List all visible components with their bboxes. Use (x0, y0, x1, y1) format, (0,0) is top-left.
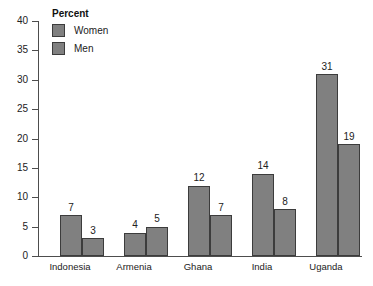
category-label-indonesia: Indonesia (34, 262, 106, 272)
bar-ghana-women[interactable] (188, 186, 210, 257)
legend-label-men: Men (74, 44, 93, 54)
y-tick-label-5: 5 (2, 222, 28, 232)
category-label-india: India (226, 262, 298, 272)
bar-indonesia-men[interactable] (82, 238, 104, 256)
bar-value-uganda-women: 31 (316, 62, 338, 72)
bar-value-india-men: 8 (274, 197, 296, 207)
y-tick-label-25: 25 (2, 104, 28, 114)
bar-value-uganda-men: 19 (338, 132, 360, 142)
bar-value-indonesia-men: 3 (82, 226, 104, 236)
y-tick-label-15: 15 (2, 163, 28, 173)
legend-item-men[interactable]: Men (52, 42, 108, 55)
bar-ghana-men[interactable] (210, 215, 232, 256)
bar-uganda-women[interactable] (316, 74, 338, 256)
bar-armenia-women[interactable] (124, 233, 146, 257)
bar-india-men[interactable] (274, 209, 296, 256)
bar-india-women[interactable] (252, 174, 274, 256)
bar-group-india: 14 8 (252, 21, 296, 256)
y-tick-0 (32, 256, 38, 257)
category-label-uganda: Uganda (290, 262, 362, 272)
bar-group-armenia: 4 5 (124, 21, 168, 256)
y-tick-label-30: 30 (2, 75, 28, 85)
legend-title: Percent (52, 8, 108, 20)
category-label-ghana: Ghana (162, 262, 234, 272)
y-tick-label-10: 10 (2, 192, 28, 202)
bar-value-ghana-women: 12 (188, 173, 210, 183)
y-tick-label-35: 35 (2, 45, 28, 55)
bar-group-uganda: 31 19 (316, 21, 360, 256)
bar-value-ghana-men: 7 (210, 203, 232, 213)
legend-swatch-women (52, 24, 65, 37)
legend-label-women: Women (74, 26, 108, 36)
category-label-armenia: Armenia (98, 262, 170, 272)
bar-value-armenia-men: 5 (146, 214, 168, 224)
bar-indonesia-women[interactable] (60, 215, 82, 256)
legend-item-women[interactable]: Women (52, 24, 108, 37)
y-tick-label-0: 0 (2, 251, 28, 261)
bar-group-ghana: 12 7 (188, 21, 232, 256)
bar-uganda-men[interactable] (338, 144, 360, 256)
bar-value-indonesia-women: 7 (60, 203, 82, 213)
x-axis-line (38, 256, 362, 257)
y-tick-label-40: 40 (2, 16, 28, 26)
bar-armenia-men[interactable] (146, 227, 168, 256)
y-tick-label-20: 20 (2, 134, 28, 144)
legend-swatch-men (52, 42, 65, 55)
bar-value-india-women: 14 (252, 161, 274, 171)
legend: Percent Women Men (52, 8, 108, 60)
bar-chart: 40 35 30 25 20 15 10 5 0 7 3 4 5 12 7 (0, 0, 373, 286)
bar-value-armenia-women: 4 (124, 220, 146, 230)
